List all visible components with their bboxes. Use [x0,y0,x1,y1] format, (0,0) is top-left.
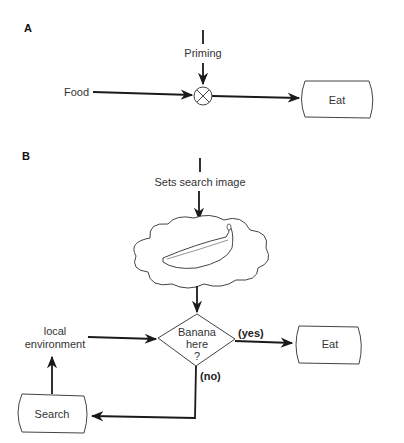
yes-arrow [235,341,292,343]
local-env-line-2: environment [25,338,86,350]
food-arrow [93,92,192,95]
panel-a-label: A [24,22,32,34]
decision-line-3: ? [194,350,200,362]
sets-search-image-label: Sets search image [154,176,245,188]
multiplier-junction-icon [194,87,212,105]
environment-to-decision-arrow [88,337,156,339]
priming-label: Priming [184,47,221,59]
decision-line-2: here [186,338,208,350]
no-arrow [92,366,196,418]
yes-label: (yes) [238,327,264,339]
panel-b-label: B [22,150,30,162]
search-label: Search [35,408,70,420]
local-env-line-1: local [44,325,67,337]
no-label: (no) [200,370,221,382]
panel-a: A Priming Food Eat [24,22,373,118]
diagram-canvas: A Priming Food Eat B Sets search image B… [0,0,404,443]
thought-cloud-banana-icon [134,215,269,288]
to-eat-arrow-a [212,96,299,98]
eat-label-b: Eat [322,338,339,350]
panel-b: B Sets search image Banana here ? (yes) … [18,150,361,433]
decision-line-1: Banana [178,326,217,338]
eat-label-a: Eat [329,94,346,106]
food-label: Food [64,86,89,98]
